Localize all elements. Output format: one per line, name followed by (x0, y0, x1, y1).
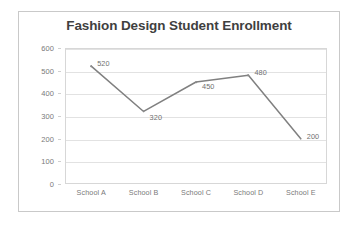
chart-title: Fashion Design Student Enrollment (19, 18, 339, 33)
y-axis-tick-label: 400 (41, 89, 54, 98)
x-axis-tick-label: School B (129, 188, 159, 197)
chart-frame: Fashion Design Student Enrollment 010020… (18, 11, 340, 212)
y-axis-tick-label: 600 (41, 44, 54, 53)
y-axis-tick-label: 100 (41, 157, 54, 166)
data-point-label: 320 (150, 113, 162, 122)
data-point-marker (143, 111, 145, 113)
x-axis-tick-label: School A (77, 188, 106, 197)
data-point-marker (195, 81, 197, 83)
y-axis-tick-mark (58, 71, 61, 72)
data-point-label: 200 (307, 131, 319, 140)
y-axis: 0100200300400500600 (19, 48, 61, 184)
x-axis-tick-label: School D (233, 188, 263, 197)
data-point-label: 480 (254, 68, 266, 77)
data-point-label: 450 (202, 82, 214, 91)
data-point-marker (248, 74, 250, 76)
y-axis-tick-label: 200 (41, 134, 54, 143)
y-axis-tick-label: 0 (50, 180, 54, 189)
data-point-marker (90, 65, 92, 67)
y-axis-tick-label: 300 (41, 112, 54, 121)
data-point-marker (300, 138, 302, 140)
y-axis-tick-mark (58, 161, 61, 162)
y-axis-tick-mark (58, 139, 61, 140)
y-axis-tick-mark (58, 93, 61, 94)
x-axis: School ASchool BSchool CSchool DSchool E (65, 188, 327, 204)
y-axis-tick-mark (58, 116, 61, 117)
y-axis-tick-mark (58, 184, 61, 185)
y-axis-tick-mark (58, 48, 61, 49)
x-axis-tick-label: School C (181, 188, 211, 197)
data-point-label: 520 (97, 59, 109, 68)
y-axis-tick-label: 500 (41, 66, 54, 75)
x-axis-tick-label: School E (286, 188, 316, 197)
enrollment-line-series (65, 48, 327, 184)
